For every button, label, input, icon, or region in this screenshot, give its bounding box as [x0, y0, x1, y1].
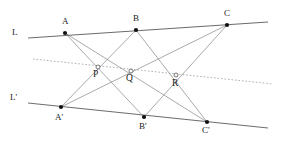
- point-b-prime: [142, 115, 146, 119]
- label-B-prime: B': [139, 122, 147, 131]
- label-A: A: [62, 17, 69, 26]
- label-P: P: [93, 70, 98, 80]
- label-line-L: L: [12, 28, 18, 37]
- point-b: [134, 28, 138, 32]
- cross-segment-c-to-bp: [144, 25, 227, 117]
- point-r: [174, 73, 178, 77]
- label-R: R: [172, 79, 178, 89]
- label-C-prime: C': [202, 126, 210, 135]
- point-a-prime: [59, 105, 63, 109]
- cross-segment-c-to-ap: [61, 25, 227, 107]
- pappus-line: [33, 59, 273, 84]
- label-Q: Q: [126, 74, 133, 84]
- point-c-prime: [205, 120, 209, 124]
- point-a: [63, 31, 67, 35]
- label-A-prime: A': [55, 113, 63, 122]
- pappus-line-group: [33, 59, 273, 84]
- point-c: [225, 23, 229, 27]
- label-C: C: [224, 9, 230, 18]
- label-B: B: [133, 14, 139, 23]
- line-l-prime: [28, 103, 268, 128]
- pappus-diagram: LL'ABCA'B'C'PQR: [0, 0, 288, 143]
- label-line-L-prime: L': [10, 93, 17, 102]
- cross-segment-group: [61, 25, 227, 122]
- cross-segment-b-to-cp: [136, 30, 207, 122]
